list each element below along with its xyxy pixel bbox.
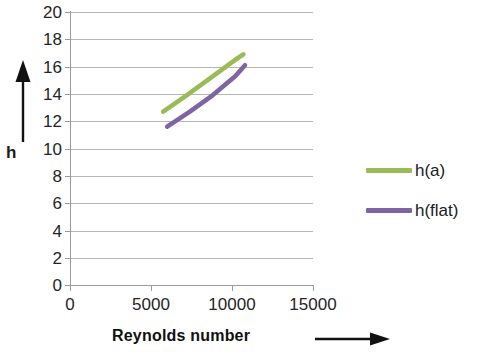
plot-area (70, 12, 313, 285)
y-tick-20 (65, 12, 71, 13)
x-tick-5000 (151, 285, 152, 291)
y-tick-6 (65, 203, 71, 204)
legend-label-h-flat: h(flat) (412, 202, 458, 219)
gridline-14 (70, 94, 313, 95)
gridline-8 (70, 176, 313, 177)
legend-item-h-a: h(a) (366, 150, 478, 190)
legend: h(a) h(flat) (366, 150, 478, 230)
x-axis-line (70, 285, 314, 286)
x-tick-10000 (232, 285, 233, 291)
gridline-6 (70, 203, 313, 204)
gridline-20 (70, 12, 313, 13)
gridline-16 (70, 67, 313, 68)
x-tick-label-10000: 10000 (192, 296, 272, 313)
y-tick-label-8: 8 (16, 168, 62, 185)
y-tick-14 (65, 94, 71, 95)
gridline-12 (70, 121, 313, 122)
y-tick-label-18: 18 (16, 31, 62, 48)
gridline-10 (70, 149, 313, 150)
chart-figure: 20 18 16 14 12 10 8 6 4 2 0 0 5000 10000… (0, 0, 478, 352)
y-tick-12 (65, 121, 71, 122)
x-tick-label-0: 0 (30, 296, 110, 313)
up-arrow-icon (12, 58, 34, 144)
x-tick-label-15000: 15000 (273, 296, 353, 313)
y-tick-label-2: 2 (16, 250, 62, 267)
y-tick-label-20: 20 (16, 4, 62, 21)
legend-swatch-h-flat (366, 208, 412, 213)
y-tick-2 (65, 258, 71, 259)
legend-label-h-a: h(a) (412, 162, 445, 179)
y-axis-title: h (6, 144, 16, 161)
x-tick-label-5000: 5000 (111, 296, 191, 313)
y-tick-18 (65, 39, 71, 40)
y-tick-8 (65, 176, 71, 177)
gridline-4 (70, 231, 313, 232)
gridline-2 (70, 258, 313, 259)
right-arrow-icon (314, 330, 392, 348)
y-tick-label-0: 0 (16, 277, 62, 294)
y-tick-16 (65, 67, 71, 68)
x-tick-0 (70, 285, 71, 291)
x-tick-15000 (313, 285, 314, 291)
y-tick-10 (65, 149, 71, 150)
x-axis-title: Reynolds number (112, 327, 250, 345)
y-tick-label-4: 4 (16, 223, 62, 240)
legend-swatch-h-a (366, 168, 412, 173)
legend-item-h-flat: h(flat) (366, 190, 478, 230)
y-tick-4 (65, 231, 71, 232)
gridline-18 (70, 39, 313, 40)
y-tick-label-6: 6 (16, 195, 62, 212)
